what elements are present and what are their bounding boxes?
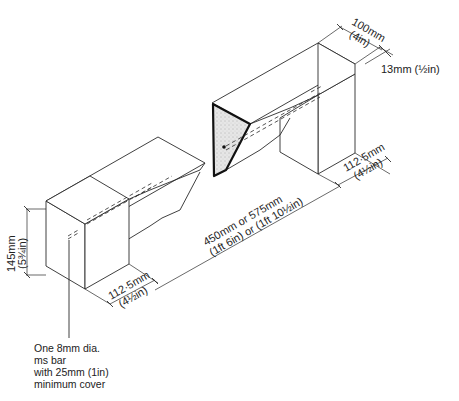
rebar-note: One 8mm dia. ms bar with 25mm (1in) mini… xyxy=(34,342,109,390)
rebar-end-dot xyxy=(222,145,226,149)
rebar-note-line-4: minimum cover xyxy=(34,378,109,390)
dim-top-offset: 13mm (½in) xyxy=(381,63,440,75)
left-lintel-section xyxy=(46,137,205,338)
rebar-note-line-3: with 25mm (1in) xyxy=(34,366,109,378)
right-lintel-section xyxy=(212,43,355,176)
dim-height-imperial: (5¾in) xyxy=(16,238,28,269)
lintel-diagram: 100mm (4in) 13mm (½in) 112·5mm (4½in) 45… xyxy=(0,0,459,401)
rebar-note-line-1: One 8mm dia. xyxy=(34,342,109,354)
rebar-note-line-2: ms bar xyxy=(34,354,109,366)
